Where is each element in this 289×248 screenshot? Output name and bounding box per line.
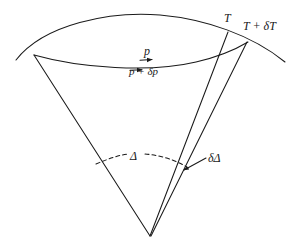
label-p: p: [144, 45, 150, 57]
arrowhead-p: [140, 60, 152, 61]
right-ray-line-T-delta-T: [151, 42, 247, 236]
diagram-canvas: [0, 0, 289, 248]
label-T: T: [224, 12, 231, 24]
left-ray-line: [34, 55, 150, 236]
label-delta-delta: δΔ: [208, 152, 221, 164]
label-T-delta-T: T + δT: [243, 20, 276, 32]
label-p-delta-p: p + δp: [129, 66, 158, 77]
leader-line-delta-delta: [184, 158, 206, 170]
ray-cone-diagram: T T + δT p p + δp Δ δΔ: [0, 0, 289, 248]
right-ray-line-T: [150, 32, 228, 236]
label-delta: Δ: [130, 150, 137, 162]
